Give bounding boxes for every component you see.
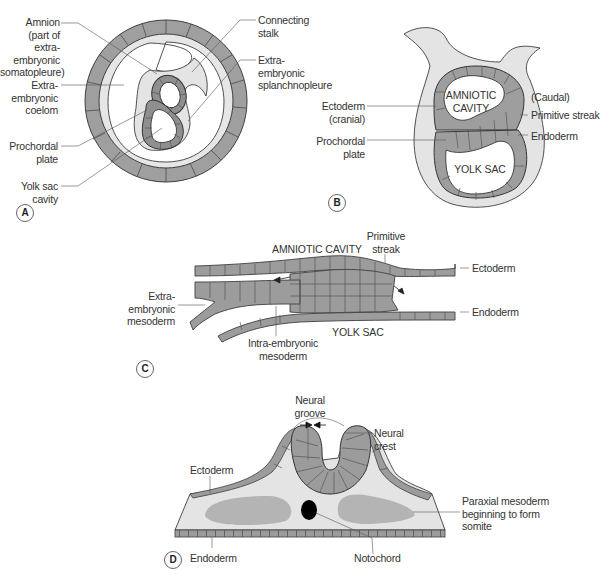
panel-b-embryonic-disc <box>367 28 544 208</box>
label-b-prochordal-plate: Prochordal plate <box>300 135 365 160</box>
label-b-endoderm: Endoderm <box>531 130 578 143</box>
panel-a-badge: A <box>16 204 34 222</box>
label-c-amniotic-cavity: AMNIOTIC CAVITY <box>272 243 362 256</box>
panel-d-badge: D <box>164 551 182 569</box>
label-d-notochord: Notochord <box>354 552 401 565</box>
label-c-primitive-streak: Primitive streak <box>358 230 414 255</box>
label-b-yolk-sac: YOLK SAC <box>440 163 520 176</box>
label-amnion: Amnion (part of extra- embryonic somatop… <box>0 16 60 79</box>
label-d-endoderm: Endoderm <box>190 552 237 565</box>
label-extra-embryonic-coelom: Extra- embryonic coelom <box>0 79 58 117</box>
label-b-caudal: (Caudal) <box>531 91 570 104</box>
label-b-ectoderm-cranial: Ectoderm (cranial) <box>300 100 365 125</box>
label-connecting-stalk: Connecting stalk <box>258 14 309 39</box>
label-d-paraxial-mesoderm: Paraxial mesoderm beginning to form somi… <box>462 495 549 533</box>
notochord-shape <box>301 500 317 520</box>
label-extra-embryonic-splanchnopleure: Extra- embryonic splanchnopleure <box>258 54 332 92</box>
label-d-ectoderm: Ectoderm <box>190 464 233 477</box>
label-d-neural-groove: Neural groove <box>290 394 330 419</box>
panel-c-badge: C <box>136 360 154 378</box>
label-c-intra-embryonic-mesoderm: Intra-embryonic mesoderm <box>240 337 326 362</box>
label-c-endoderm: Endoderm <box>472 306 519 319</box>
label-c-yolk-sac: YOLK SAC <box>332 326 384 339</box>
label-d-neural-crest: Neural crest <box>374 427 404 452</box>
label-yolk-sac-cavity: Yolk sac cavity <box>0 180 58 205</box>
label-prochordal-plate: Prochordal plate <box>0 140 58 165</box>
panel-c-primitive-streak-section <box>178 254 469 342</box>
panel-a-conceptus <box>61 20 256 186</box>
label-b-amniotic-cavity: AMNIOTIC CAVITY <box>436 89 506 114</box>
label-c-extra-embryonic-mesoderm: Extra- embryonic mesoderm <box>110 290 175 328</box>
label-c-ectoderm: Ectoderm <box>472 262 515 275</box>
label-b-primitive-streak: Primitive streak <box>531 109 600 122</box>
endoderm-layer <box>175 530 445 537</box>
panel-d-neurulation-section <box>175 418 460 554</box>
panel-b-badge: B <box>328 194 346 212</box>
